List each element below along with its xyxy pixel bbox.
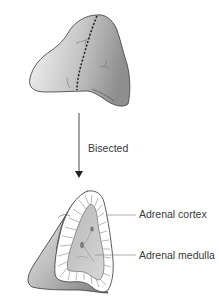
arrowhead-icon (75, 171, 83, 178)
intact-adrenal-gland (30, 15, 130, 106)
central-vein (80, 242, 84, 248)
adrenal-cortex-label: Adrenal cortex (139, 209, 207, 220)
bisected-arrow (75, 113, 83, 178)
bisected-label: Bisected (88, 143, 128, 154)
bisected-adrenal-gland (28, 191, 113, 293)
central-vein (90, 226, 94, 231)
gland-outline (30, 15, 130, 106)
adrenal-medulla-label: Adrenal medulla (139, 250, 215, 261)
